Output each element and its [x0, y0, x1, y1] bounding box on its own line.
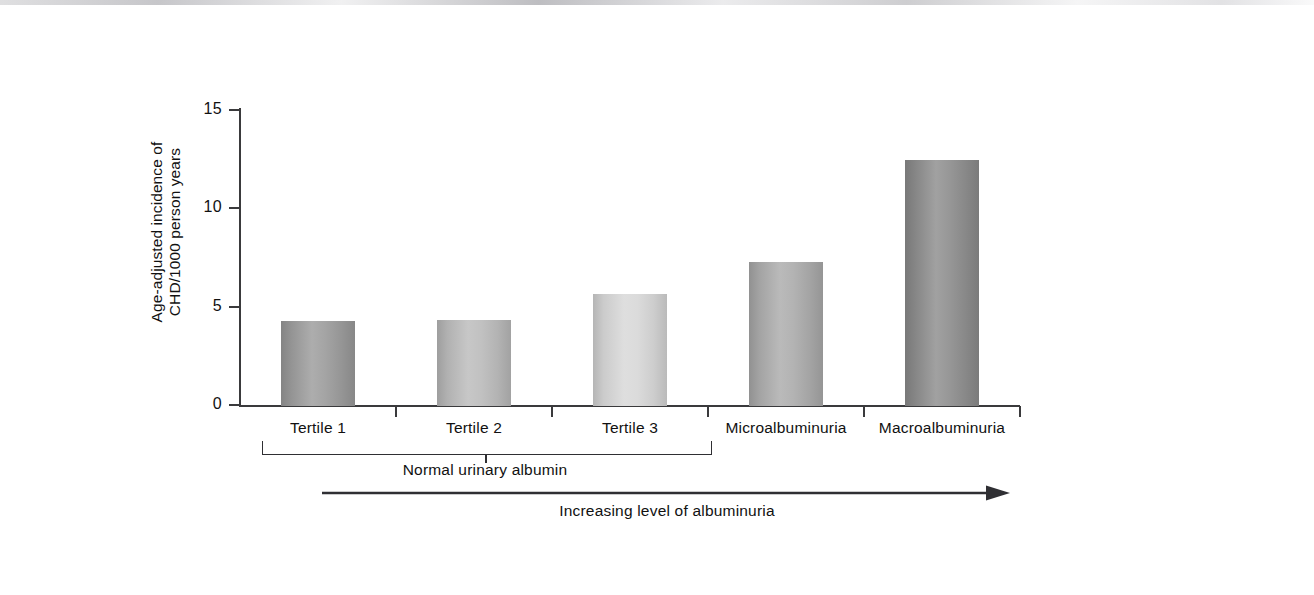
bar-tertile-1: [281, 321, 355, 406]
trend-caption: Increasing level of albuminuria: [322, 502, 1012, 520]
arrow-right-icon: [322, 482, 1012, 504]
normal-albumin-bracket: [262, 441, 712, 455]
x-axis-tick: [1019, 406, 1021, 417]
x-axis-label-macroalbuminuria: Macroalbuminuria: [842, 419, 1042, 437]
x-axis-tick: [707, 406, 709, 417]
x-axis-tick: [863, 406, 865, 417]
x-axis-tick: [551, 406, 553, 417]
bar-chart-figure: Age-adjusted incidence of CHD/1000 perso…: [0, 0, 1314, 595]
bar-microalbuminuria: [749, 262, 823, 406]
x-axis-tick: [395, 406, 397, 417]
bars-layer: [0, 0, 1314, 406]
bar-macroalbuminuria: [905, 160, 979, 406]
normal-albumin-label: Normal urinary albumin: [330, 461, 640, 479]
increasing-trend-arrow: [322, 482, 1012, 504]
bar-tertile-3: [593, 294, 667, 406]
figure-page: Age-adjusted incidence of CHD/1000 perso…: [0, 0, 1314, 595]
bar-tertile-2: [437, 320, 511, 406]
